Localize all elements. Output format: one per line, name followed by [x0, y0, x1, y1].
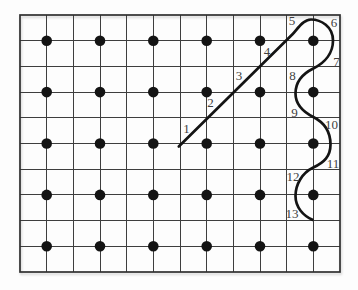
curve-label-7: 7 [333, 54, 340, 69]
lattice-dot [255, 87, 266, 98]
curve-label-12: 12 [287, 169, 300, 184]
lattice-dot [148, 190, 159, 201]
curve-label-2: 2 [207, 95, 214, 110]
lattice-dot [201, 35, 212, 46]
lattice-dot [95, 241, 106, 252]
curve-label-6: 6 [331, 15, 338, 30]
curve-label-4: 4 [264, 44, 271, 59]
lattice-dot [255, 241, 266, 252]
lattice-dot [148, 35, 159, 46]
lattice-dot [41, 241, 52, 252]
curve-label-3: 3 [236, 68, 243, 83]
curve-label-11: 11 [327, 156, 340, 171]
curve-label-13: 13 [286, 206, 299, 221]
curve-label-10: 10 [325, 117, 338, 132]
curve-label-1: 1 [183, 121, 190, 136]
grid-curve-diagram: 12345678910111213 [0, 0, 358, 290]
lattice-dot [41, 190, 52, 201]
lattice-dot [95, 87, 106, 98]
lattice-dot [201, 190, 212, 201]
lattice-dot [308, 138, 319, 149]
curve-label-9: 9 [291, 105, 298, 120]
lattice-dot [308, 241, 319, 252]
lattice-dot [148, 87, 159, 98]
lattice-dot [308, 35, 319, 46]
lattice-dot [148, 138, 159, 149]
lattice-dot [95, 138, 106, 149]
lattice-dot [41, 35, 52, 46]
lattice-curve-figure: 12345678910111213 [0, 0, 358, 290]
curve-label-5: 5 [289, 13, 296, 28]
lattice-dot [148, 241, 159, 252]
lattice-dot [41, 87, 52, 98]
lattice-dot [255, 190, 266, 201]
lattice-dot [308, 190, 319, 201]
lattice-dot [255, 138, 266, 149]
curve-label-8: 8 [289, 68, 296, 83]
lattice-dot [308, 87, 319, 98]
lattice-dot [95, 190, 106, 201]
lattice-dot [201, 138, 212, 149]
lattice-dot [95, 35, 106, 46]
lattice-dot [201, 241, 212, 252]
lattice-dot [41, 138, 52, 149]
